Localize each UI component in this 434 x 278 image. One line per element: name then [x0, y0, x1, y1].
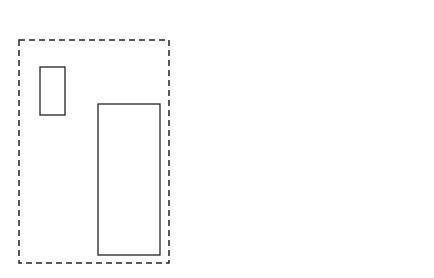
- i2c-diagram: [0, 0, 434, 278]
- master-switches-block: [40, 67, 65, 115]
- master-pic-block: [98, 104, 160, 255]
- master-group: [19, 40, 169, 263]
